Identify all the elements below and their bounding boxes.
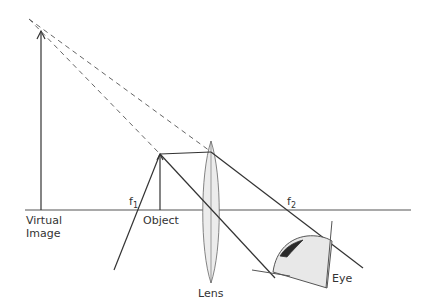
dashed-ray-2 — [29, 19, 210, 151]
focal-ray — [114, 154, 160, 270]
virtual-image-label-1: Virtual — [26, 214, 62, 227]
f1-label: f1 — [129, 195, 138, 210]
dashed-ray-1 — [29, 19, 160, 154]
virtual-image-label-2: Image — [26, 227, 61, 240]
eye-label: Eye — [332, 272, 352, 285]
object-label: Object — [143, 214, 180, 227]
f2-label: f2 — [287, 195, 296, 210]
lens-label: Lens — [198, 287, 224, 300]
ray-diagram: Virtual Image Object Lens Eye f1 f2 — [0, 0, 428, 308]
eye — [273, 236, 332, 288]
parallel-ray — [160, 152, 211, 154]
